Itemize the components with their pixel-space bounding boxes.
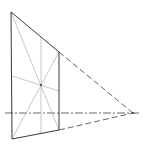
perspective-diagram	[0, 0, 144, 147]
horizontal-center-line	[12, 76, 59, 91]
vanishing-point	[132, 112, 134, 114]
bottom-receding-line	[59, 113, 133, 130]
top-receding-line	[59, 52, 133, 113]
diagonal-bottom-left-to-top-right	[12, 52, 59, 139]
center-point	[40, 84, 42, 86]
left-vertical-edge	[11, 12, 12, 139]
top-edge	[11, 12, 59, 52]
bottom-edge	[12, 130, 59, 139]
diagonal-top-left-to-bottom-right	[11, 12, 59, 130]
